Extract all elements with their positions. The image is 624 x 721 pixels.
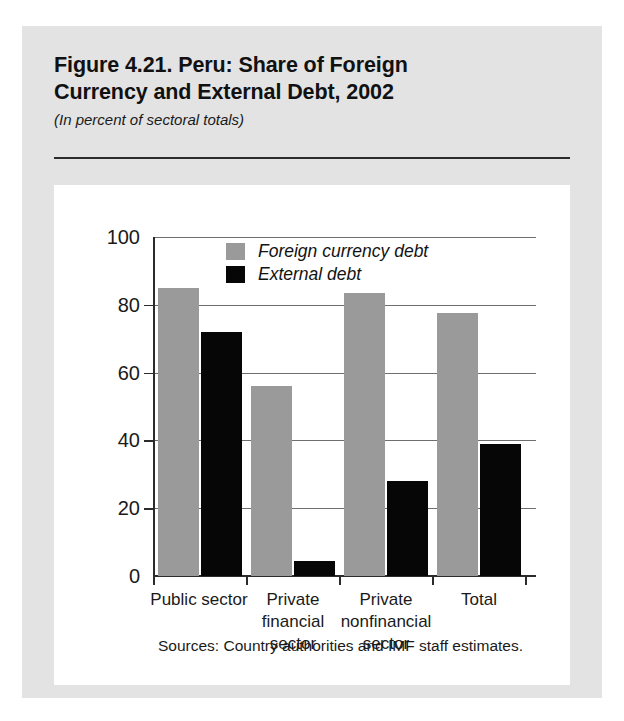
bar-private-financial-sector-external-debt [294, 561, 335, 576]
figure-page: Figure 4.21. Peru: Share of Foreign Curr… [22, 26, 602, 698]
figure-heading: Figure 4.21. Peru: Share of Foreign Curr… [54, 52, 559, 130]
y-tick-60 [144, 373, 154, 375]
gridline-100 [154, 237, 536, 238]
y-label-40: 40 [56, 429, 140, 452]
y-tick-80 [144, 305, 154, 307]
x-tick-1 [246, 576, 248, 585]
plot-area: 100 80 60 40 20 0 [54, 185, 570, 685]
x-tick-3 [432, 576, 434, 585]
x-label-total: Total [414, 589, 544, 611]
x-label-private-nonfinancial-sector-line-2: nonfinancial [321, 611, 451, 633]
y-tick-40 [144, 440, 154, 442]
chart-legend: Foreign currency debt External debt [226, 240, 428, 286]
x-tick-0 [153, 576, 155, 585]
legend-item-foreign-currency-debt: Foreign currency debt [226, 240, 428, 263]
bar-private-nonfinancial-sector-foreign-currency-debt [344, 293, 385, 576]
figure-subtitle: (In percent of sectoral totals) [54, 110, 559, 130]
x-label-total-line-1: Total [414, 589, 544, 611]
y-label-60: 60 [56, 362, 140, 385]
bar-private-financial-sector-foreign-currency-debt [251, 386, 292, 576]
y-label-0: 0 [56, 565, 140, 588]
legend-label-foreign-currency-debt: Foreign currency debt [258, 241, 428, 262]
figure-title: Figure 4.21. Peru: Share of Foreign Curr… [54, 52, 559, 106]
title-divider [54, 157, 570, 159]
bar-total-external-debt [480, 444, 521, 576]
bar-public-sector-external-debt [201, 332, 242, 576]
bar-public-sector-foreign-currency-debt [158, 288, 199, 576]
legend-label-external-debt: External debt [258, 264, 361, 285]
bar-total-foreign-currency-debt [437, 313, 478, 576]
y-label-80: 80 [56, 294, 140, 317]
source-note: Sources: Country authorities and IMF sta… [158, 637, 523, 655]
legend-swatch-external-debt [226, 266, 245, 283]
x-tick-4 [525, 576, 527, 585]
y-label-100: 100 [56, 226, 140, 249]
y-label-20: 20 [56, 497, 140, 520]
figure-title-line-2: Currency and External Debt, 2002 [54, 80, 394, 104]
chart-panel: 100 80 60 40 20 0 [54, 185, 570, 685]
bar-private-nonfinancial-sector-external-debt [387, 481, 428, 576]
y-axis-line [153, 237, 155, 576]
legend-swatch-foreign-currency-debt [226, 243, 245, 260]
legend-item-external-debt: External debt [226, 263, 428, 286]
x-tick-2 [339, 576, 341, 585]
y-tick-20 [144, 508, 154, 510]
figure-title-line-1: Figure 4.21. Peru: Share of Foreign [54, 53, 408, 77]
